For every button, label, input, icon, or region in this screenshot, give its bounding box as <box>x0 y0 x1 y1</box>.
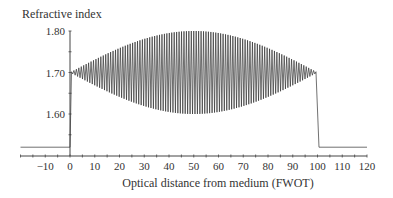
plot-area <box>21 31 368 147</box>
y-axis-label: Refractive index <box>22 7 102 21</box>
x-tick-label: 20 <box>114 160 126 172</box>
y-tick-label: 1.70 <box>46 67 66 79</box>
x-tick-label: −10 <box>37 160 55 172</box>
x-axis: −100102030405060708090100110120 <box>21 155 376 173</box>
x-tick-label: 0 <box>67 160 73 172</box>
x-tick-label: 60 <box>213 160 225 172</box>
x-tick-label: 10 <box>89 160 101 172</box>
x-tick-label: 120 <box>359 160 376 172</box>
x-tick-label: 30 <box>139 160 151 172</box>
y-axis: 1.601.701.80 <box>46 25 72 156</box>
y-tick-label: 1.60 <box>46 108 66 120</box>
y-tick-label: 1.80 <box>46 25 66 37</box>
x-tick-label: 50 <box>188 160 200 172</box>
refractive-index-line <box>21 31 368 147</box>
x-tick-label: 80 <box>263 160 275 172</box>
x-axis-label: Optical distance from medium (FWOT) <box>122 176 313 190</box>
x-tick-label: 40 <box>164 160 176 172</box>
x-tick-label: 90 <box>287 160 299 172</box>
x-tick-label: 70 <box>238 160 250 172</box>
x-tick-label: 100 <box>309 160 326 172</box>
x-tick-label: 110 <box>334 160 351 172</box>
refractive-index-chart: Refractive index 1.601.701.80 −100102030… <box>0 0 393 198</box>
